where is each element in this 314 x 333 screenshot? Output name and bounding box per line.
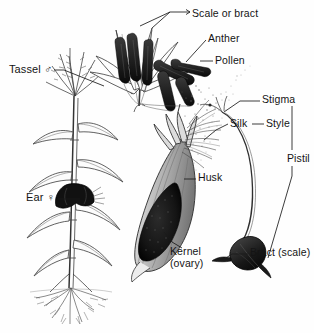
label-stigma: Stigma [262, 94, 295, 106]
label-tassel-male: Tassel ♂ [9, 64, 52, 76]
diagram-artwork [0, 0, 314, 333]
label-silk: Silk [230, 118, 247, 130]
label-pistil: Pistil [287, 153, 310, 165]
label-pollen: Pollen [215, 55, 245, 67]
label-kernel-ovary: Kernel (ovary) [170, 246, 203, 269]
label-anther: Anther [208, 33, 240, 45]
label-husk: Husk [198, 172, 222, 184]
label-style: Style [266, 118, 290, 130]
corn-reproduction-diagram: Scale or bract Anther Pollen Tassel ♂ St… [0, 0, 314, 333]
label-bract-scale: Bract (scale) [250, 247, 310, 259]
label-scale-or-bract: Scale or bract [192, 8, 258, 20]
label-ear-female: Ear ♀ [26, 192, 55, 204]
